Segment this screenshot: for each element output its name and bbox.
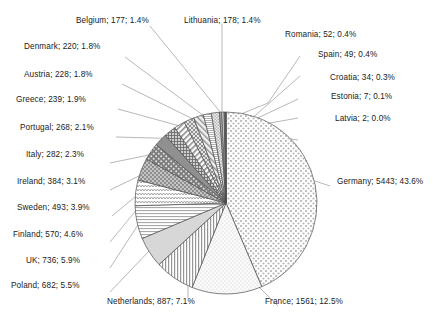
slice-label-sweden: Sweden; 493; 3.9% (17, 203, 90, 213)
leader-line-belgium2 (150, 26, 221, 113)
slice-label-germany: Germany; 5443; 43.6% (337, 177, 423, 187)
slice-label-denmark: Denmark; 220; 1.8% (24, 42, 100, 52)
slice-label-netherlands: Netherlands; 887; 7.1% (107, 297, 195, 307)
leader-line-romania (236, 56, 300, 116)
leader-line-poland (110, 250, 150, 292)
slice-label-estonia: Estonia; 7; 0.1% (331, 92, 392, 102)
slice-label-spain: Spain; 49; 0.4% (318, 50, 377, 60)
slice-label-latvia: Latvia; 2; 0.0% (335, 114, 391, 124)
slice-label-belgium: Belgium; 177; 1.4% (76, 16, 149, 26)
slice-label-greece: Greece; 239; 1.9% (16, 95, 86, 105)
slice-label-ireland: Ireland; 384; 3.1% (17, 177, 85, 187)
slice-label-uk: UK; 736; 5.9% (26, 256, 80, 266)
slice-label-romania: Romania; 52; 0.4% (285, 30, 356, 40)
slice-label-france: France; 1561; 12.5% (265, 297, 343, 307)
slice-label-poland: Poland; 682; 5.5% (11, 281, 80, 291)
slice-label-lithuania: Lithuania; 178; 1.4% (184, 16, 261, 26)
slice-label-finland: Finland; 570; 4.6% (13, 230, 83, 240)
pie-chart-figure: Belgium; 177; 1.4% Lithuania; 178; 1.4% … (0, 0, 443, 321)
pie-slices-group (135, 112, 317, 294)
slice-label-portugal: Portugal; 268; 2.1% (20, 123, 94, 133)
leader-line-denmark (125, 57, 208, 119)
slice-label-croatia: Croatia; 34; 0.3% (330, 73, 395, 83)
slice-label-austria: Austria; 228; 1.8% (24, 70, 93, 80)
leader-line-spain (250, 76, 300, 120)
slice-label-italy: Italy; 282; 2.3% (26, 150, 84, 160)
leader-line-austria (122, 84, 203, 124)
